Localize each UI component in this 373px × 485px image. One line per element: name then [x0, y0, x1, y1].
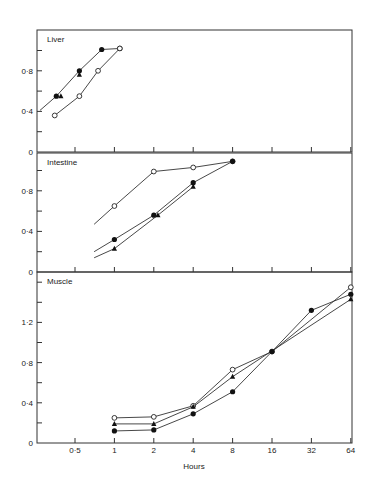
- x-axis-label: Hours: [183, 462, 204, 471]
- open-circle-marker: [151, 169, 156, 174]
- y-tick-label: 0: [29, 439, 34, 448]
- series-filled-circle: [112, 292, 354, 434]
- series-line: [55, 48, 120, 115]
- panel-frame: [37, 153, 352, 272]
- series-line: [94, 187, 193, 258]
- x-tick-label: 32: [307, 446, 316, 455]
- y-tick-label: 0: [29, 148, 34, 157]
- filled-circle-marker: [112, 237, 117, 242]
- series-line: [94, 161, 232, 224]
- y-tick-label: 0: [29, 268, 34, 277]
- filled-circle-marker: [191, 411, 196, 416]
- open-circle-marker: [151, 414, 156, 419]
- panel-liver: Liver00·40·8: [21, 30, 352, 157]
- series-open-circle: [112, 285, 353, 420]
- x-tick-label: 1: [112, 446, 117, 455]
- open-circle-marker: [52, 113, 57, 118]
- open-circle-marker: [117, 46, 122, 51]
- x-tick-label: 16: [268, 446, 277, 455]
- open-circle-marker: [230, 367, 235, 372]
- filled-circle-marker: [99, 47, 104, 52]
- x-tick-label: 2: [152, 446, 157, 455]
- triangle-marker: [112, 246, 117, 251]
- x-tick-label: 4: [191, 446, 196, 455]
- open-circle-marker: [96, 68, 101, 73]
- series-open-circle: [94, 159, 235, 224]
- series-filled-circle: [40, 46, 122, 111]
- chart: Liver00·40·8Intestine00·40·8Muscle00·40·…: [0, 0, 373, 485]
- panel-title: Liver: [47, 35, 65, 44]
- triangle-marker: [112, 421, 117, 426]
- open-circle-marker: [112, 204, 117, 209]
- y-tick-label: 0·8: [21, 187, 33, 196]
- x-tick-label: 8: [230, 446, 235, 455]
- series-line: [114, 294, 350, 431]
- filled-circle-marker: [112, 428, 117, 433]
- x-tick-label: 0·5: [69, 446, 81, 455]
- filled-circle-marker: [269, 349, 274, 354]
- y-tick-label: 1·2: [21, 318, 33, 327]
- filled-circle-marker: [54, 94, 59, 99]
- triangle-marker: [230, 374, 235, 379]
- triangle-marker: [348, 296, 353, 301]
- filled-circle-marker: [151, 427, 156, 432]
- series-filled-triangle: [112, 296, 354, 426]
- y-tick-label: 0·8: [21, 67, 33, 76]
- chart-panels: Liver00·40·8Intestine00·40·8Muscle00·40·…: [21, 30, 353, 448]
- open-circle-marker: [191, 165, 196, 170]
- x-tick-label: 64: [346, 446, 355, 455]
- open-circle-marker: [348, 285, 353, 290]
- panel-intestine: Intestine00·40·8: [21, 153, 352, 277]
- open-circle-marker: [77, 94, 82, 99]
- series-line: [40, 48, 120, 110]
- panel-frame: [37, 30, 352, 152]
- filled-circle-marker: [230, 389, 235, 394]
- y-tick-label: 0·4: [21, 399, 33, 408]
- panel-title: Intestine: [47, 158, 78, 167]
- open-circle-marker: [112, 415, 117, 420]
- filled-circle-marker: [348, 292, 353, 297]
- x-axis: 0·51248163264: [69, 446, 356, 455]
- series-line: [114, 287, 350, 418]
- y-tick-label: 0·8: [21, 359, 33, 368]
- panel-muscle: Muscle00·40·81·2: [21, 272, 353, 448]
- filled-circle-marker: [309, 308, 314, 313]
- y-tick-label: 0·4: [21, 107, 33, 116]
- panel-frame: [37, 272, 352, 443]
- y-tick-label: 0·4: [21, 227, 33, 236]
- panel-title: Muscle: [47, 277, 73, 286]
- series-line: [114, 299, 350, 424]
- series-open-circle: [52, 46, 122, 118]
- filled-circle-marker: [230, 159, 235, 164]
- triangle-marker: [58, 93, 63, 98]
